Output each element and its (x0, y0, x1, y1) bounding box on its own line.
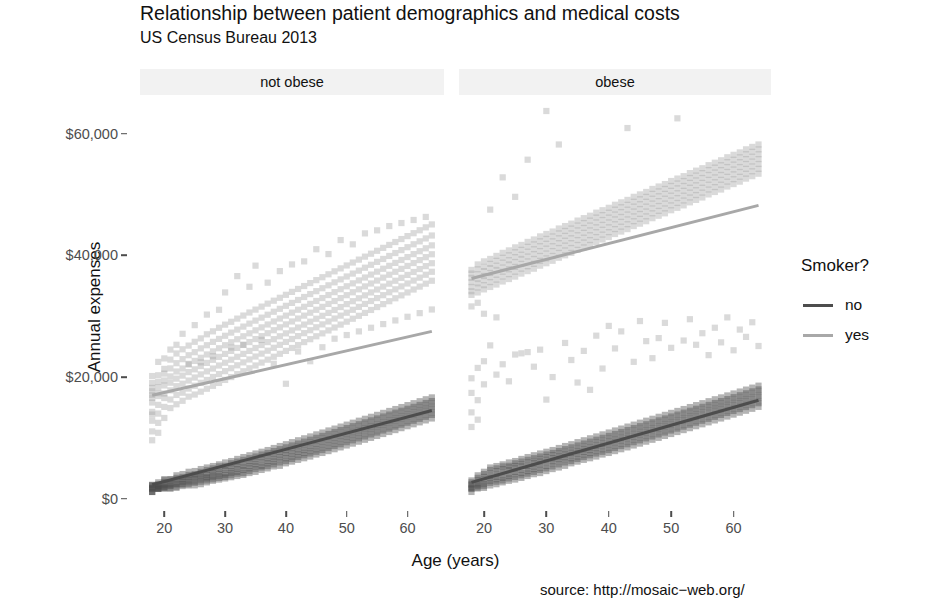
data-point (307, 280, 313, 286)
data-point (319, 295, 325, 301)
data-point (234, 327, 240, 333)
data-point (167, 357, 173, 363)
x-axis-tick-mark (407, 511, 409, 517)
chart-caption: source: http://mosaic−web.org/ (540, 581, 745, 598)
data-point (295, 324, 301, 330)
data-point (173, 350, 179, 356)
data-point (240, 333, 246, 339)
data-point (271, 327, 277, 333)
data-point (423, 245, 429, 251)
data-point (681, 337, 687, 343)
data-point (737, 149, 743, 155)
data-point (730, 347, 736, 353)
data-point (271, 354, 277, 360)
data-point (656, 335, 662, 341)
legend: Smoker? no yes (801, 256, 921, 350)
data-point (423, 281, 429, 287)
data-point (556, 445, 562, 451)
trend-line-no (471, 400, 758, 482)
data-point (356, 328, 362, 334)
data-point (319, 304, 325, 310)
data-point (649, 355, 655, 361)
facet-strip-obese: obese (459, 69, 771, 95)
data-point (234, 336, 240, 342)
data-point (380, 275, 386, 281)
data-point (198, 371, 204, 377)
data-point (319, 313, 325, 319)
data-point (240, 359, 246, 365)
data-point (319, 344, 325, 350)
legend-item-yes[interactable]: yes (801, 320, 921, 350)
data-point (368, 325, 374, 331)
data-point (167, 365, 173, 371)
data-point (368, 280, 374, 286)
data-point (350, 298, 356, 304)
data-point (404, 280, 410, 286)
data-point (216, 371, 222, 377)
data-point (252, 318, 258, 324)
y-axis-tick-mark (121, 254, 127, 256)
x-axis-tick-mark (346, 511, 348, 517)
data-point (574, 217, 580, 223)
data-point (192, 349, 198, 355)
data-point (228, 365, 234, 371)
data-point (186, 394, 192, 400)
data-point (512, 458, 518, 464)
data-point (404, 244, 410, 250)
data-point (631, 194, 637, 200)
legend-item-no[interactable]: no (801, 290, 921, 320)
data-point (149, 373, 155, 379)
data-point (259, 304, 265, 310)
data-point (699, 330, 705, 336)
data-point (500, 174, 506, 180)
data-point (149, 380, 155, 386)
data-point (518, 242, 524, 248)
data-point (319, 321, 325, 327)
data-point (656, 183, 662, 189)
data-point (350, 280, 356, 286)
data-point (404, 314, 410, 320)
data-point (468, 390, 474, 396)
data-point (417, 275, 423, 281)
data-point (631, 422, 637, 428)
data-point (368, 271, 374, 277)
data-point (392, 278, 398, 284)
data-point (693, 402, 699, 408)
data-point (386, 289, 392, 295)
data-point (234, 362, 240, 368)
data-point (179, 331, 185, 337)
data-point (331, 336, 337, 342)
data-point (331, 298, 337, 304)
data-point (475, 261, 481, 267)
data-point (543, 108, 549, 114)
data-point (481, 358, 487, 364)
data-point (398, 275, 404, 281)
data-point (362, 283, 368, 289)
data-point (186, 352, 192, 358)
data-point (487, 464, 493, 470)
data-point (411, 251, 417, 257)
data-point (662, 320, 668, 326)
data-point (179, 381, 185, 387)
data-point (525, 239, 531, 245)
data-point (265, 357, 271, 363)
data-point (325, 282, 331, 288)
data-point (271, 445, 277, 451)
data-point (331, 279, 337, 285)
data-point (301, 294, 307, 300)
data-point (210, 383, 216, 389)
data-point (277, 443, 283, 449)
data-point (325, 251, 331, 257)
y-axis-tick-mark (121, 498, 127, 500)
data-point (192, 391, 198, 397)
data-point (429, 269, 435, 275)
data-point (289, 318, 295, 324)
data-point (155, 359, 161, 365)
data-point (380, 292, 386, 298)
data-point (155, 402, 161, 408)
data-point (587, 435, 593, 441)
data-point (392, 286, 398, 292)
data-point (404, 254, 410, 260)
data-point (173, 342, 179, 348)
x-axis-tick-label: 20 (476, 520, 492, 536)
